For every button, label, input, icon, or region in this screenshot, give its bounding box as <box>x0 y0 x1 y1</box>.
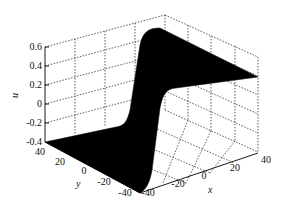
y-axis-label: y <box>75 178 81 189</box>
z-axis-label: u <box>9 93 20 98</box>
y-tick: 0 <box>82 165 87 176</box>
x-tick: -40 <box>141 187 154 198</box>
y-tick: -20 <box>97 176 110 187</box>
z-axis-ticks: 0.6 0.4 0.2 0 -0.2 -0.4 <box>26 41 42 147</box>
z-tick: -0.2 <box>26 117 42 128</box>
z-tick: 0.4 <box>30 60 43 71</box>
x-tick: -20 <box>171 178 184 189</box>
x-axis-label: x <box>207 184 213 195</box>
z-tick: 0.6 <box>30 41 43 52</box>
x-tick: 40 <box>261 154 271 165</box>
y-tick: -40 <box>118 187 131 198</box>
x-tick: 20 <box>230 162 240 173</box>
z-tick: 0 <box>37 98 42 109</box>
x-axis-ticks: -40 -20 0 20 40 <box>141 154 271 198</box>
z-tick: 0.2 <box>30 79 43 90</box>
kink-surface <box>45 28 258 193</box>
y-tick: 20 <box>55 156 65 167</box>
surface-plot: 0.6 0.4 0.2 0 -0.2 -0.4 u 40 20 0 -20 -4… <box>0 0 286 210</box>
x-tick: 0 <box>202 170 207 181</box>
y-tick: 40 <box>35 146 45 157</box>
